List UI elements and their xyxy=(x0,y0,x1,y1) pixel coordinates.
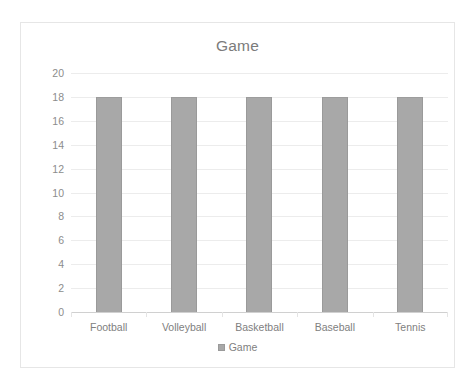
y-axis-tick-label: 8 xyxy=(58,210,64,222)
x-axis-tick-mark xyxy=(222,312,223,317)
y-axis-tick-label: 14 xyxy=(52,139,64,151)
x-axis-tick-label: Basketball xyxy=(235,321,283,333)
y-axis-tick-label: 18 xyxy=(52,91,64,103)
plot-area: 20181614121086420 FootballVolleyballBask… xyxy=(71,73,448,312)
bar[interactable] xyxy=(322,97,348,312)
bar[interactable] xyxy=(96,97,122,312)
y-axis-tick-label: 12 xyxy=(52,163,64,175)
y-axis-tick-label: 2 xyxy=(58,282,64,294)
x-axis-tick-mark xyxy=(297,312,298,317)
bar-slot xyxy=(373,73,448,312)
x-axis-tick-label: Volleyball xyxy=(162,321,206,333)
bar[interactable] xyxy=(397,97,423,312)
chart-legend: Game xyxy=(21,341,454,353)
bar-slot xyxy=(222,73,297,312)
chart-title: Game xyxy=(21,37,454,55)
legend-label: Game xyxy=(229,341,258,353)
bar-slot xyxy=(146,73,221,312)
bar-slot xyxy=(71,73,146,312)
x-axis-tick-label: Tennis xyxy=(395,321,425,333)
y-axis-tick-label: 10 xyxy=(52,187,64,199)
x-axis-tick-mark xyxy=(373,312,374,317)
y-axis-tick-label: 16 xyxy=(52,115,64,127)
x-axis-tick-mark xyxy=(447,312,448,317)
x-axis-tick-label: Baseball xyxy=(315,321,355,333)
y-axis-tick-label: 20 xyxy=(52,67,64,79)
x-axis-line xyxy=(71,312,448,313)
bar[interactable] xyxy=(171,97,197,312)
y-axis-tick-label: 0 xyxy=(58,306,64,318)
x-axis-tick-mark xyxy=(146,312,147,317)
legend-swatch-icon xyxy=(218,344,225,351)
x-axis-tick-label: Football xyxy=(90,321,127,333)
bar-slot xyxy=(297,73,372,312)
bars-group xyxy=(71,73,448,312)
x-axis-tick-mark xyxy=(71,312,72,317)
y-axis-tick-label: 6 xyxy=(58,234,64,246)
y-axis-tick-label: 4 xyxy=(58,258,64,270)
chart-container: Game 20181614121086420 FootballVolleybal… xyxy=(20,22,455,368)
bar[interactable] xyxy=(246,97,272,312)
